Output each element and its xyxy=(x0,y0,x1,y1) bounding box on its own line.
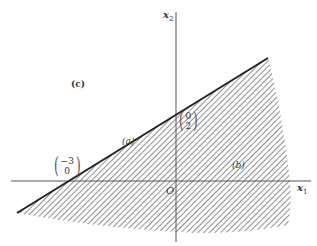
x1-axis-label: x1 xyxy=(297,183,307,196)
point-y-intercept: ( 0 2 ) xyxy=(177,110,200,132)
x1-label-sub: 1 xyxy=(303,188,307,196)
left-paren: ( xyxy=(54,155,59,177)
region-label-a: (a) xyxy=(122,137,134,146)
diagram: x2 x1 O (c) (a) (b) ( −3 0 ) ( 0 2 ) xyxy=(0,0,317,246)
x2-label-sub: 2 xyxy=(169,15,173,23)
origin-label: O xyxy=(166,186,174,196)
point-x-intercept: ( −3 0 ) xyxy=(52,155,82,177)
vector-bottom: 0 xyxy=(64,166,70,176)
right-paren: ) xyxy=(193,110,198,132)
region-label-c: (c) xyxy=(71,80,85,89)
vector-bottom: 2 xyxy=(186,121,192,131)
region-label-b: (b) xyxy=(232,161,245,170)
left-paren: ( xyxy=(179,110,184,132)
hatched-region-b xyxy=(17,58,291,233)
x2-axis-label: x2 xyxy=(163,10,173,23)
diagram-canvas xyxy=(0,0,317,246)
right-paren: ) xyxy=(76,155,81,177)
vector-top: 0 xyxy=(186,111,192,121)
vector-top: −3 xyxy=(61,156,74,166)
